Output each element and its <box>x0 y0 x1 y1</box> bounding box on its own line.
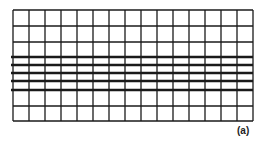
figure-label: (a) <box>237 125 249 136</box>
grid-diagram <box>0 0 267 147</box>
